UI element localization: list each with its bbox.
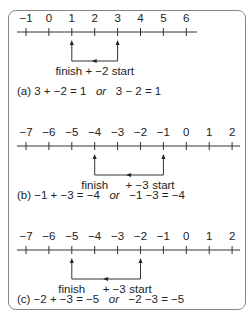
equation-b: (b) −1 + −3 = −4 or −1 −3 = −4: [17, 189, 185, 201]
jump-path: [72, 262, 141, 279]
tick-label: −1: [157, 230, 170, 242]
tick-label: −7: [19, 230, 32, 242]
arrow-up-icon: [70, 258, 74, 263]
arrow-up-icon: [116, 40, 120, 45]
equation-a-alt: 3 − 2 = 1: [116, 85, 161, 97]
tick-label: 1: [206, 126, 212, 138]
equation-c: (c) −2 + −3 = −5 or −2 −3 = −5: [17, 293, 184, 305]
tick-label: 0: [183, 126, 189, 138]
tick-label: −6: [42, 126, 55, 138]
equation-c-main: (c) −2 + −3 = −5: [17, 293, 99, 305]
arrow-up-icon: [139, 258, 143, 263]
tick-label: 0: [183, 230, 189, 242]
equation-b-alt: −1 −3 = −4: [129, 189, 185, 201]
tick-label: 1: [206, 230, 212, 242]
equation-c-or: or: [109, 293, 119, 305]
equation-a-main: (a) 3 + −2 = 1: [17, 85, 86, 97]
jump-label: finish + −2 start: [55, 65, 134, 77]
equation-b-main: (b) −1 + −3 = −4: [17, 189, 100, 201]
tick-label: −3: [111, 230, 124, 242]
tick-label: −4: [88, 126, 102, 138]
arrow-left-icon: [103, 277, 108, 281]
tick-label: 6: [183, 12, 189, 24]
tick-label: −5: [65, 126, 78, 138]
tick-label: 2: [229, 230, 235, 242]
tick-label: 2: [229, 126, 235, 138]
tick-label: −1: [157, 126, 170, 138]
tick-label: −7: [19, 126, 32, 138]
equation-a-or: or: [96, 85, 106, 97]
tick-label: −4: [88, 230, 102, 242]
number-line-diagram: −10123456finish + −2 start−7−6−5−4−3−2−1…: [0, 0, 251, 318]
arrow-up-icon: [161, 154, 165, 159]
tick-label: 3: [114, 12, 120, 24]
tick-label: −2: [134, 126, 147, 138]
tick-label: 2: [91, 12, 97, 24]
tick-label: −2: [134, 230, 147, 242]
tick-label: −1: [19, 12, 32, 24]
tick-label: 4: [137, 12, 144, 24]
equation-c-alt: −2 −3 = −5: [129, 293, 185, 305]
arrow-up-icon: [93, 154, 97, 159]
arrow-left-icon: [126, 173, 131, 177]
jump-path: [95, 158, 164, 175]
tick-label: −6: [42, 230, 55, 242]
tick-label: 5: [160, 12, 166, 24]
equation-b-or: or: [109, 189, 119, 201]
tick-label: 0: [46, 12, 52, 24]
tick-label: −3: [111, 126, 124, 138]
tick-label: 1: [69, 12, 75, 24]
arrow-left-icon: [92, 59, 97, 63]
jump-path: [72, 44, 118, 61]
arrow-up-icon: [70, 40, 74, 45]
tick-label: −5: [65, 230, 78, 242]
equation-a: (a) 3 + −2 = 1 or 3 − 2 = 1: [17, 85, 161, 97]
